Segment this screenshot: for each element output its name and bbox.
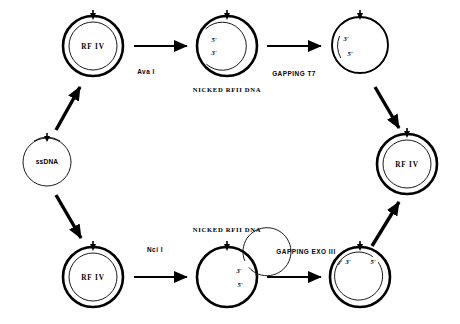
caption-nicked-rfii-top: NICKED RFII DNA <box>193 86 261 93</box>
edge-label-gapping-t7: GAPPING T7 <box>272 70 316 77</box>
five-prime-label: 5' <box>370 258 375 265</box>
rfiv-top-label: RF IV <box>81 43 105 51</box>
five-prime-label: 5' <box>211 36 216 43</box>
origin-tick-icon <box>90 241 96 251</box>
node-rfiv-bottom[interactable]: RF IV <box>63 241 123 307</box>
edge-label-nci-i: Nci I <box>147 246 163 253</box>
ssdna-label: ssDNA <box>36 158 59 165</box>
caption-nicked-rfii-bottom: NICKED RFII DNA <box>193 226 261 233</box>
five-prime-label: 5' <box>237 281 242 288</box>
node-rfiv-top[interactable]: RF IV <box>63 10 123 76</box>
origin-tick-icon <box>224 10 230 20</box>
node-rfiv-right[interactable]: RF IV <box>377 128 437 194</box>
edge-gapped-bottom-to-rfiv-right <box>372 202 399 246</box>
three-prime-label: 3' <box>344 258 350 265</box>
rfiv-bottom-label: RF IV <box>81 274 105 282</box>
edge-gapped-top-to-rfiv-right <box>375 87 399 128</box>
pathway-diagram: ssDNA RF IV 5' 3' <box>0 0 460 324</box>
origin-tick-icon <box>44 133 50 142</box>
node-nicked-rfii-bottom[interactable]: 3' 5' <box>197 228 291 307</box>
three-prime-label: 3' <box>210 49 216 56</box>
three-prime-label: 3' <box>235 267 241 274</box>
five-prime-label: 5' <box>347 50 352 57</box>
origin-tick-icon <box>357 241 363 251</box>
node-nicked-rfii-top[interactable]: 5' 3' <box>197 10 257 76</box>
rfiv-right-label: RF IV <box>395 161 419 169</box>
edge-ssdna-to-rfiv-bottom <box>56 195 81 238</box>
edge-label-ava-i: Ava I <box>137 68 155 75</box>
origin-tick-icon <box>90 10 96 20</box>
origin-tick-icon <box>404 128 410 138</box>
origin-tick-icon <box>357 10 363 20</box>
node-gapped-bottom[interactable]: 3' 5' <box>330 241 390 307</box>
node-ssdna[interactable]: ssDNA <box>23 133 71 186</box>
edge-label-gapping-exo-iii: GAPPING EXO III <box>276 248 335 255</box>
edge-ssdna-to-rfiv-top <box>56 87 80 130</box>
origin-tick-icon <box>224 241 230 251</box>
node-gapped-top[interactable]: 3' 5' <box>332 10 388 73</box>
three-prime-label: 3' <box>342 35 348 42</box>
diagram-canvas: ssDNA RF IV 5' 3' <box>0 0 460 324</box>
